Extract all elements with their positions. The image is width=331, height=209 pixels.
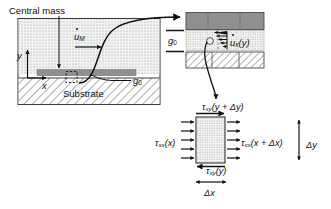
gap-subscript-inset: 0 [173,39,177,46]
velocity-profile-argument: (y) [239,37,250,48]
gap-label-main: g0 [133,76,142,87]
tau-xx-left-argument: (x) [165,138,176,148]
gap-subscript-main: 0 [138,79,142,86]
x-axis-label: x [42,81,47,91]
tau-xx-left-label: τxx(x) [155,139,175,149]
delta-x-label: Δx [204,189,215,198]
tau-xx-right-label: τxx(x + Δx) [241,139,283,149]
tau-xy-bottom-label: τxy(y) [206,167,226,177]
gap-label-inset: g0 [168,36,177,47]
delta-y-label: Δy [306,141,317,150]
mass-velocity-symbol: u [74,31,79,42]
tau-xx-right-argument: (x + Δx) [251,138,283,148]
velocity-profile-label: ux(y) [230,38,250,49]
tau-xy-top-label: τxy(y + Δy) [202,103,244,113]
velocity-profile-symbol: u [230,37,235,48]
tau-xy-top-argument: (y + Δy) [212,102,244,112]
substrate-label: Substrate [63,89,104,99]
y-axis-label: y [17,51,22,61]
mass-velocity-subscript: M [79,35,84,42]
mass-velocity-label: uM [74,32,85,43]
central-mass-label: Central mass [9,6,65,16]
tau-xy-bottom-argument: (y) [216,166,227,176]
figure-text-layer: Central mass uM y x g0 Substrate g0 ux(y… [0,0,331,209]
figure-root: Central mass uM y x g0 Substrate g0 ux(y… [0,0,331,209]
